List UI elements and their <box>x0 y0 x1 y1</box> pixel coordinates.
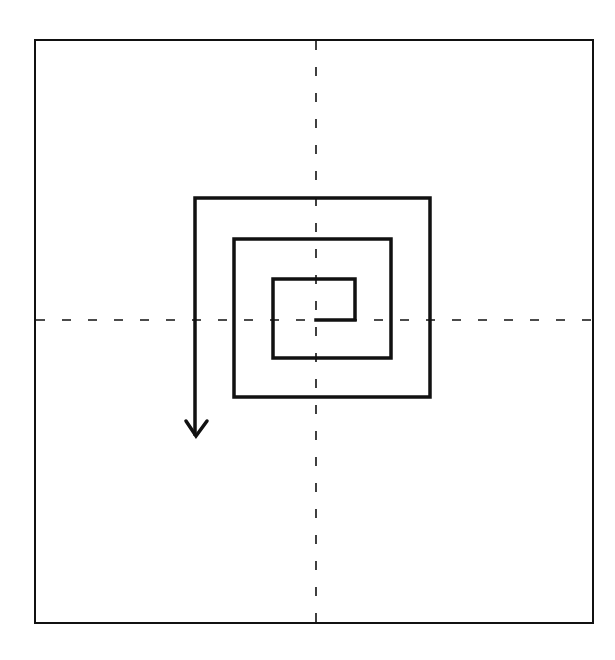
diagram-frame <box>35 40 593 623</box>
spiral-diagram <box>0 0 615 660</box>
square-spiral-path <box>195 198 430 434</box>
